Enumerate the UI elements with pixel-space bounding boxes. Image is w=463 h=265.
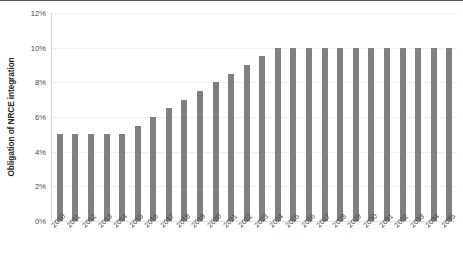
x-tick-slot: 2012 xyxy=(82,221,98,265)
y-axis-tick-label: 6% xyxy=(35,113,46,122)
plot-area xyxy=(51,13,457,221)
bar-slot xyxy=(317,13,333,221)
bar-slot xyxy=(130,13,146,221)
bar[interactable] xyxy=(88,134,94,221)
bar-slot xyxy=(286,13,302,221)
y-axis-tick-label: 12% xyxy=(31,9,46,18)
x-tick-slot: 2025 xyxy=(285,221,301,265)
bar[interactable] xyxy=(259,56,265,221)
bar[interactable] xyxy=(72,134,78,221)
y-axis-tick-label: 10% xyxy=(31,43,46,52)
bar[interactable] xyxy=(368,48,374,221)
bar[interactable] xyxy=(415,48,421,221)
x-tick-slot: 2014 xyxy=(113,221,129,265)
bar[interactable] xyxy=(119,134,125,221)
bar-slot xyxy=(426,13,442,221)
y-axis-tick-label: 0% xyxy=(35,217,46,226)
x-tick-slot: 2027 xyxy=(316,221,332,265)
bar[interactable] xyxy=(384,48,390,221)
x-tick-slot: 2022 xyxy=(238,221,254,265)
bar-slot xyxy=(114,13,130,221)
bar-slot xyxy=(270,13,286,221)
bar[interactable] xyxy=(337,48,343,221)
bar-slot xyxy=(52,13,68,221)
bar-slot xyxy=(332,13,348,221)
x-tick-slot: 2032 xyxy=(394,221,410,265)
bar-slot xyxy=(239,13,255,221)
bar-chart: Obligation of NRCE integration 0%2%4%6%8… xyxy=(0,0,463,265)
bar[interactable] xyxy=(104,134,110,221)
x-tick-slot: 2017 xyxy=(160,221,176,265)
bar[interactable] xyxy=(446,48,452,221)
x-tick-slot: 2015 xyxy=(129,221,145,265)
bar-slot xyxy=(301,13,317,221)
bar[interactable] xyxy=(166,108,172,221)
bar-slot xyxy=(223,13,239,221)
y-axis-title-text: Obligation of NRCE integration xyxy=(6,57,16,176)
x-tick-slot: 2029 xyxy=(348,221,364,265)
bar-slot xyxy=(364,13,380,221)
bar-slot xyxy=(441,13,457,221)
bar-slot xyxy=(83,13,99,221)
x-axis-tick-labels: 2010201120122013201420152016201720182019… xyxy=(51,221,457,265)
bar-slot xyxy=(410,13,426,221)
bar-slot xyxy=(395,13,411,221)
bar-slot xyxy=(99,13,115,221)
x-tick-slot: 2033 xyxy=(410,221,426,265)
bar[interactable] xyxy=(322,48,328,221)
x-tick-slot: 2030 xyxy=(363,221,379,265)
x-tick-slot: 2020 xyxy=(207,221,223,265)
bar-slot xyxy=(379,13,395,221)
x-tick-slot: 2026 xyxy=(301,221,317,265)
bar-slot xyxy=(348,13,364,221)
y-axis-title: Obligation of NRCE integration xyxy=(0,1,22,233)
x-tick-slot: 2034 xyxy=(426,221,442,265)
x-tick-slot: 2013 xyxy=(98,221,114,265)
bar-slot xyxy=(68,13,84,221)
x-tick-slot: 2018 xyxy=(176,221,192,265)
x-tick-slot: 2011 xyxy=(67,221,83,265)
bar-slot xyxy=(145,13,161,221)
y-axis-tick-label: 4% xyxy=(35,147,46,156)
x-tick-slot: 2023 xyxy=(254,221,270,265)
bar[interactable] xyxy=(197,91,203,221)
x-tick-slot: 2010 xyxy=(51,221,67,265)
y-axis-tick-labels: 0%2%4%6%8%10%12% xyxy=(20,1,50,233)
x-tick-slot: 2021 xyxy=(223,221,239,265)
bar-slot xyxy=(255,13,271,221)
y-axis-tick-label: 8% xyxy=(35,78,46,87)
bar[interactable] xyxy=(228,74,234,221)
x-tick-slot: 2016 xyxy=(145,221,161,265)
bar[interactable] xyxy=(431,48,437,221)
bar-slot xyxy=(177,13,193,221)
bar[interactable] xyxy=(275,48,281,221)
x-tick-slot: 2031 xyxy=(379,221,395,265)
bar[interactable] xyxy=(244,65,250,221)
x-tick-slot: 2024 xyxy=(270,221,286,265)
bar[interactable] xyxy=(181,100,187,221)
bar-slot xyxy=(161,13,177,221)
x-tick-slot: 2019 xyxy=(191,221,207,265)
y-axis-tick-label: 2% xyxy=(35,182,46,191)
bar[interactable] xyxy=(290,48,296,221)
bar[interactable] xyxy=(150,117,156,221)
bar[interactable] xyxy=(306,48,312,221)
bar[interactable] xyxy=(353,48,359,221)
bar[interactable] xyxy=(57,134,63,221)
bar[interactable] xyxy=(135,126,141,221)
x-tick-slot: 2035 xyxy=(441,221,457,265)
bar-slot xyxy=(208,13,224,221)
bars-layer xyxy=(52,13,457,221)
bar-slot xyxy=(192,13,208,221)
bar[interactable] xyxy=(213,82,219,221)
bar[interactable] xyxy=(400,48,406,221)
x-tick-slot: 2028 xyxy=(332,221,348,265)
